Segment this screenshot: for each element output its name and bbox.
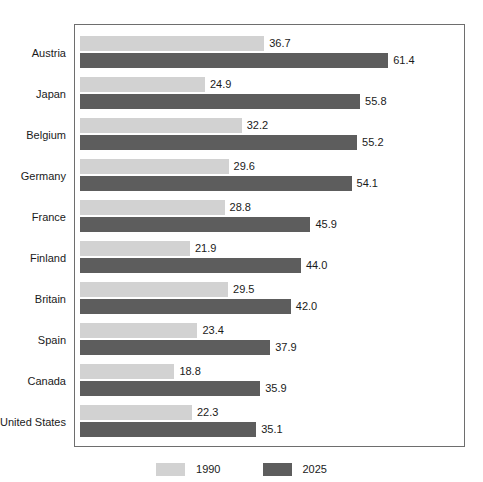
bar-germany-1990[interactable] xyxy=(80,159,229,174)
category-label-canada: Canada xyxy=(0,375,66,387)
bar-value-canada-1990: 18.8 xyxy=(179,364,200,379)
bar-value-finland-1990: 21.9 xyxy=(195,241,216,256)
bar-value-germany-2025: 54.1 xyxy=(357,176,378,191)
category-label-united-states: United States xyxy=(0,416,66,428)
bar-japan-1990[interactable] xyxy=(80,77,205,92)
legend-label-1990: 1990 xyxy=(196,463,220,476)
bar-belgium-1990[interactable] xyxy=(80,118,242,133)
bar-value-spain-1990: 23.4 xyxy=(202,323,223,338)
bar-value-spain-2025: 37.9 xyxy=(275,340,296,355)
bar-austria-2025[interactable] xyxy=(80,53,388,68)
category-label-japan: Japan xyxy=(0,88,66,100)
bar-spain-2025[interactable] xyxy=(80,340,270,355)
category-label-britain: Britain xyxy=(0,293,66,305)
bar-united-states-2025[interactable] xyxy=(80,422,256,437)
bar-britain-2025[interactable] xyxy=(80,299,291,314)
category-label-belgium: Belgium xyxy=(0,129,66,141)
category-label-austria: Austria xyxy=(0,47,66,59)
bar-value-germany-1990: 29.6 xyxy=(234,159,255,174)
category-label-france: France xyxy=(0,211,66,223)
bar-belgium-2025[interactable] xyxy=(80,135,357,150)
bar-france-2025[interactable] xyxy=(80,217,310,232)
bar-japan-2025[interactable] xyxy=(80,94,360,109)
bar-value-austria-2025: 61.4 xyxy=(393,53,414,68)
legend-label-2025: 2025 xyxy=(303,463,327,476)
bar-value-france-2025: 45.9 xyxy=(315,217,336,232)
bar-value-united-states-1990: 22.3 xyxy=(197,405,218,420)
bar-value-japan-2025: 55.8 xyxy=(365,94,386,109)
chart-legend: 1990 2025 xyxy=(0,459,483,479)
bar-value-finland-2025: 44.0 xyxy=(306,258,327,273)
legend-swatch-2025 xyxy=(263,463,292,476)
bar-value-britain-2025: 42.0 xyxy=(296,299,317,314)
bar-austria-1990[interactable] xyxy=(80,36,264,51)
legend-item-2025[interactable]: 2025 xyxy=(263,463,327,476)
bar-canada-2025[interactable] xyxy=(80,381,260,396)
bar-value-japan-1990: 24.9 xyxy=(210,77,231,92)
bar-united-states-1990[interactable] xyxy=(80,405,192,420)
bar-value-belgium-2025: 55.2 xyxy=(362,135,383,150)
bar-value-france-1990: 28.8 xyxy=(230,200,251,215)
bar-finland-2025[interactable] xyxy=(80,258,301,273)
bar-chart-figure: Austria36.761.4Japan24.955.8Belgium32.25… xyxy=(0,0,483,482)
bar-value-belgium-1990: 32.2 xyxy=(247,118,268,133)
bar-finland-1990[interactable] xyxy=(80,241,190,256)
bar-value-britain-1990: 29.5 xyxy=(233,282,254,297)
bar-rows-layer: Austria36.761.4Japan24.955.8Belgium32.25… xyxy=(0,0,483,482)
category-label-spain: Spain xyxy=(0,334,66,346)
category-label-germany: Germany xyxy=(0,170,66,182)
category-label-finland: Finland xyxy=(0,252,66,264)
bar-value-united-states-2025: 35.1 xyxy=(261,422,282,437)
bar-value-austria-1990: 36.7 xyxy=(269,36,290,51)
bar-canada-1990[interactable] xyxy=(80,364,174,379)
bar-value-canada-2025: 35.9 xyxy=(265,381,286,396)
legend-item-1990[interactable]: 1990 xyxy=(156,463,220,476)
bar-france-1990[interactable] xyxy=(80,200,225,215)
bar-britain-1990[interactable] xyxy=(80,282,228,297)
bar-spain-1990[interactable] xyxy=(80,323,197,338)
legend-swatch-1990 xyxy=(156,463,185,476)
bar-germany-2025[interactable] xyxy=(80,176,352,191)
